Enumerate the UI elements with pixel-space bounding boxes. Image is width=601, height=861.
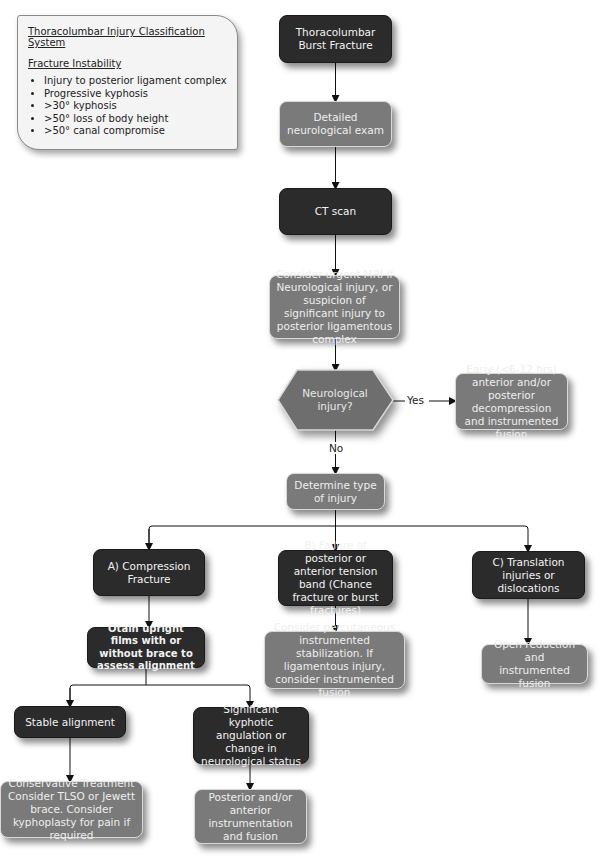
node-stable-alignment: Stable alignment (14, 706, 126, 738)
node-burst-fracture: Thoracolumbar Burst Fracture (279, 15, 392, 63)
instability-list: Injury to posterior ligament complex Pro… (28, 75, 227, 138)
node-conservative-treatment: Conservative Treatment Consider TLSO or … (0, 781, 143, 838)
node-ct-scan: CT scan (279, 188, 392, 235)
node-posterior-anterior-fusion: Posterior and/or anterior instrumentatio… (194, 789, 307, 844)
info-title: Thoracolumbar Injury Classification Syst… (28, 26, 227, 48)
instability-item: >50° canal compromise (44, 125, 227, 138)
node-kyphotic-angulation: Significant kyphotic angulation or chang… (193, 707, 309, 764)
node-upright-films: Otain upright films with or without brac… (87, 627, 205, 668)
node-neuro-exam: Detailed neurological exam (279, 101, 392, 147)
instability-item: >50° loss of body height (44, 113, 227, 126)
node-translation: C) Translation injuries or dislocations (472, 551, 585, 599)
info-subtitle: Fracture Instability (28, 58, 227, 69)
edge-label-no: No (327, 442, 345, 454)
node-tension-band: B) Failure of posterior or anterior tens… (278, 550, 393, 606)
classification-info-box: Thoracolumbar Injury Classification Syst… (17, 15, 238, 150)
instability-item: >30° kyphosis (44, 100, 227, 113)
node-neuro-injury-decision: Neurological injury? (290, 387, 380, 413)
node-mri: Consider urgent MRI if Neurological inju… (269, 275, 400, 339)
node-compression-fracture: A) Compression Fracture (93, 549, 205, 596)
node-percutaneous: Consider percutaneous instrumented stabi… (264, 631, 405, 689)
instability-item: Progressive kyphosis (44, 88, 227, 101)
node-open-reduction: Open reduction and instrumented fusion (481, 644, 588, 684)
node-early-decompression: Early (<6-12 hrs) anterior and/or poster… (455, 373, 568, 430)
node-determine-type: Determine type of injury (286, 473, 385, 510)
edge-label-yes: Yes (405, 394, 426, 406)
instability-item: Injury to posterior ligament complex (44, 75, 227, 88)
